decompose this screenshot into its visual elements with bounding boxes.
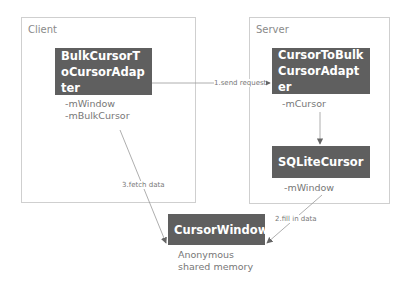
sqlite-cursor-node: SQLiteCursor bbox=[272, 146, 370, 178]
cursor-window-node: CursorWindow bbox=[168, 214, 265, 245]
node-title: SQLiteCursor bbox=[278, 154, 363, 170]
node-title: BulkCursorToCursorAdapter bbox=[61, 48, 146, 96]
edge-label-fill-data: 2.fill in data bbox=[275, 215, 317, 223]
edge-label-send-request: 1.send request bbox=[214, 79, 266, 87]
bulk-cursor-to-cursor-adapter-node: BulkCursorToCursorAdapter bbox=[55, 48, 152, 95]
bulk-adapter-fields: -mWindow -mBulkCursor bbox=[65, 98, 130, 122]
edge-label-fetch-data: 3.fetch data bbox=[122, 181, 164, 189]
sqlite-cursor-fields: -mWindow bbox=[284, 182, 334, 194]
cursor-to-bulk-cursor-adapter-node: CursorToBulkCursorAdapter bbox=[272, 48, 370, 94]
node-title: CursorWindow bbox=[174, 222, 268, 238]
diagram-canvas: Client Server BulkCursorToCursorAdapter … bbox=[0, 0, 412, 286]
cursor-window-fields: Anonymous shared memory bbox=[178, 249, 253, 273]
node-title: CursorToBulkCursorAdapter bbox=[278, 47, 364, 95]
cursor-to-bulk-fields: -mCursor bbox=[282, 98, 326, 110]
